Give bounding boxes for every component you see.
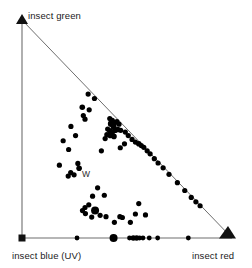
scatter-point [133,211,138,216]
scatter-point [91,207,99,215]
scatter-point [126,133,131,138]
scatter-point [57,163,62,168]
scatter-point [118,128,123,133]
scatter-point [71,172,76,177]
scatter-point [82,117,87,122]
scatter-points-group [57,92,203,242]
scatter-point [95,185,100,190]
scatter-point [66,173,71,178]
scatter-point [120,215,125,220]
scatter-point [152,156,157,161]
scatter-point [148,151,153,156]
scatter-point [122,141,127,146]
scatter-point [99,148,104,153]
scatter-point [89,214,94,219]
scatter-point [98,213,103,218]
axis-label-insect-green: insect green [28,10,81,21]
scatter-point [111,134,117,140]
scatter-point [116,122,121,127]
scatter-point [103,214,108,219]
scatter-point [118,145,123,150]
scatter-point [86,92,91,97]
scatter-point [73,133,78,138]
vertex-marker-blue [19,235,26,242]
scatter-point [61,138,66,143]
scatter-point [66,147,71,152]
scatter-point [143,212,148,217]
scatter-point [75,161,80,166]
scatter-point [103,136,108,141]
scatter-point [102,193,107,198]
scatter-point [110,234,118,242]
scatter-point [193,199,198,204]
scatter-point [90,194,95,199]
scatter-point [112,220,117,225]
triangle-plot-canvas [0,0,252,268]
scatter-point [147,236,152,241]
scatter-point [189,195,194,200]
white-point-label: W [82,169,90,179]
scatter-point [182,188,187,193]
scatter-point [136,201,141,206]
insect-color-space-figure: insect green insect blue (UV) insect red… [0,0,252,268]
scatter-point [92,96,97,101]
axis-label-insect-red: insect red [192,250,234,261]
scatter-point [161,165,166,170]
arrowhead-red-icon [219,226,236,239]
scatter-point [68,124,73,129]
scatter-point [87,107,92,112]
scatter-point [75,236,80,241]
arrowhead-green-icon [16,14,28,24]
scatter-point [175,180,180,185]
scatter-point [83,211,88,216]
axis-label-insect-blue-uv: insect blue (UV) [12,250,81,261]
scatter-point [79,104,85,110]
scatter-point [166,172,171,177]
scatter-point [197,203,202,208]
scatter-point [155,160,160,165]
scatter-point [128,220,133,225]
scatter-point [155,236,160,241]
scatter-point [141,236,146,241]
scatter-point [186,236,191,241]
